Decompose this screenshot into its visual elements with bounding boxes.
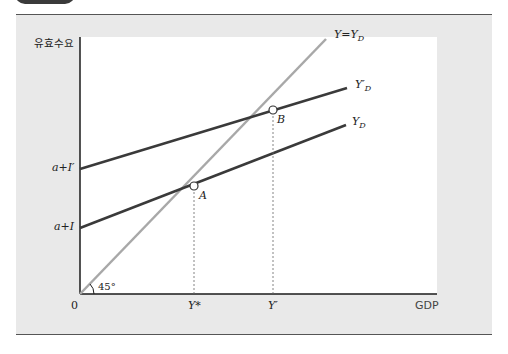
label-yd-prime-line: Y′D [355,78,371,93]
point-b [269,106,277,114]
angle-label: 45° [98,281,116,292]
x-axis-label: GDP [415,299,439,312]
intercept-a-plus-i: a+I [54,220,74,233]
label-ydp-main: Y′ [355,78,365,91]
x-tick-y-prime: Y′ [268,299,278,312]
line-yd [80,125,346,228]
x-tick-y-star: Y* [188,299,201,312]
point-b-label: B [277,113,285,126]
origin-label: 0 [71,299,78,312]
label-45-degree-line: Y=YD [334,28,364,43]
label-yd-sub: D [359,121,365,130]
point-a [190,182,198,190]
label-45-main: Y=Y [334,28,358,41]
label-45-sub: D [358,34,364,43]
intercept-a-plus-i-prime: a+I′ [52,161,75,174]
y-axis-label: 유효수요 [34,35,74,50]
angle-arc-icon [90,284,94,294]
line-45-degree [80,39,326,294]
point-a-label: A [199,189,207,202]
label-yd-line: YD [352,115,366,130]
label-ydp-sub: D [365,84,371,93]
